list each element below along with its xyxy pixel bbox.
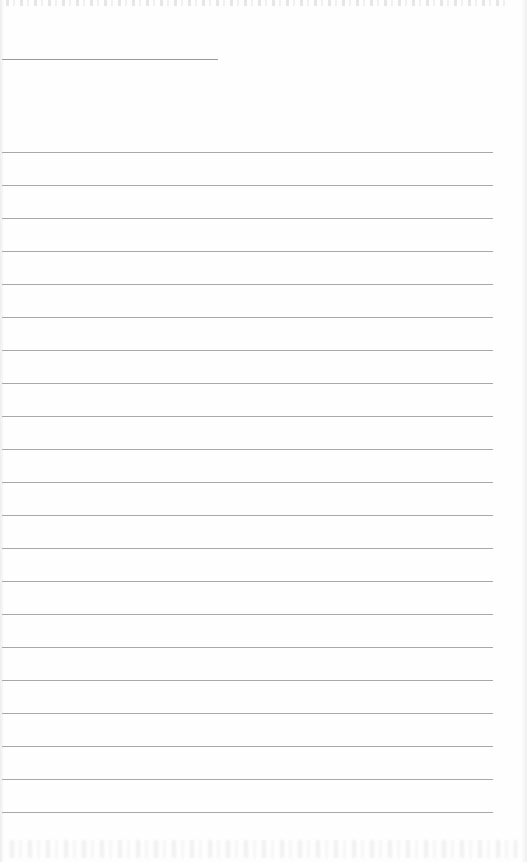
ruled-line xyxy=(2,812,493,813)
ruled-line xyxy=(2,416,493,417)
page-right-edge-shadow xyxy=(521,0,527,862)
bleed-through-text xyxy=(10,840,517,858)
ruled-line xyxy=(2,251,493,252)
ruled-line xyxy=(2,449,493,450)
name-field-line xyxy=(2,59,218,60)
cropped-header-text xyxy=(6,0,507,6)
ruled-line xyxy=(2,515,493,516)
lined-page xyxy=(0,0,527,862)
page-left-edge-shadow xyxy=(0,0,4,862)
ruled-line xyxy=(2,284,493,285)
ruled-line xyxy=(2,218,493,219)
ruled-line xyxy=(2,581,493,582)
ruled-line xyxy=(2,713,493,714)
ruled-line xyxy=(2,185,493,186)
ruled-line xyxy=(2,317,493,318)
ruled-line xyxy=(2,647,493,648)
ruled-line xyxy=(2,350,493,351)
ruled-line xyxy=(2,680,493,681)
ruled-line xyxy=(2,746,493,747)
ruled-line xyxy=(2,152,493,153)
ruled-line xyxy=(2,548,493,549)
ruled-line xyxy=(2,383,493,384)
ruled-line xyxy=(2,482,493,483)
ruled-line xyxy=(2,614,493,615)
ruled-line xyxy=(2,779,493,780)
